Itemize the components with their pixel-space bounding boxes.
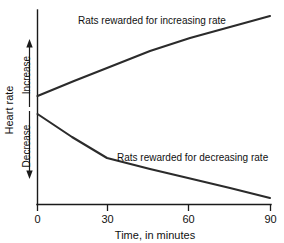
- y-axis-title: Heart rate: [3, 86, 15, 135]
- decrease-arrow-head-icon: [26, 171, 32, 180]
- x-tick-label-60: 60: [182, 213, 194, 225]
- x-tick-label-90: 90: [264, 213, 276, 225]
- increase-label: Increase: [21, 55, 32, 94]
- chart-canvas: 0 30 60 90 Time, in minutes Heart rate I…: [0, 0, 284, 243]
- x-axis-title: Time, in minutes: [115, 229, 196, 241]
- x-tick-label-30: 30: [101, 213, 113, 225]
- increase-arrow-head-icon: [26, 39, 32, 48]
- chart-figure: 0 30 60 90 Time, in minutes Heart rate I…: [0, 0, 284, 243]
- series-annotation-decreasing: Rats rewarded for decreasing rate: [117, 152, 269, 163]
- series-annotation-increasing: Rats rewarded for increasing rate: [78, 15, 226, 26]
- series-line-increasing: [38, 16, 271, 96]
- decrease-label: Decrease: [21, 124, 32, 167]
- x-tick-label-0: 0: [34, 213, 40, 225]
